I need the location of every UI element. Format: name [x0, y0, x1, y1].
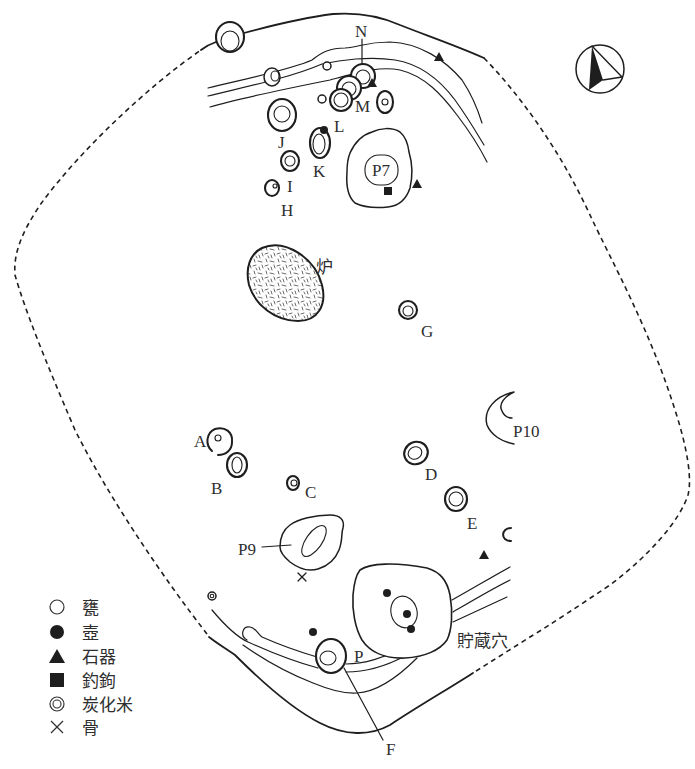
- east-ditch-line-3: [453, 597, 507, 622]
- legend: 甕 壺 石器 釣鉤 炭化米 骨: [49, 598, 133, 738]
- jar-filled-circle-icon: [403, 610, 411, 618]
- ditch-small-pit: [264, 68, 280, 86]
- pits-de: D E: [400, 438, 511, 559]
- label-storage-pit: 貯蔵穴: [457, 631, 508, 651]
- small-pit: [323, 62, 331, 70]
- pit-h: [265, 180, 279, 196]
- legend-label: 骨: [82, 718, 99, 738]
- label-j: J: [278, 133, 285, 152]
- label-f: F: [386, 740, 395, 759]
- stone-tool-triangle-icon: [479, 550, 489, 559]
- jar-filled-circle-icon: [309, 628, 317, 636]
- legend-label: 甕: [82, 598, 99, 618]
- posthole-p10: P10: [486, 392, 539, 444]
- filled-square-icon: [50, 673, 64, 687]
- label-i: I: [287, 177, 293, 196]
- pit-i: [281, 151, 299, 171]
- legend-item-bone: 骨: [51, 718, 99, 738]
- pit-g-group: G: [399, 301, 433, 341]
- double-circle-inner: [53, 700, 61, 708]
- pit-a: [207, 428, 232, 455]
- rice-double-circle-icon: [208, 592, 216, 600]
- wall-corner-pit: [216, 22, 244, 52]
- pits-hijk: J K I H: [265, 99, 330, 220]
- label-m: M: [355, 97, 370, 116]
- plan-canvas: N M L J K I H P7 炉 G: [0, 0, 695, 769]
- filled-circle-icon: [50, 625, 64, 639]
- jar-filled-circle-icon: [383, 589, 391, 597]
- cross-icon: [51, 721, 63, 733]
- label-b: B: [211, 479, 222, 498]
- hearth-outline: [248, 245, 324, 321]
- legend-item-carbonized-rice: 炭化米: [50, 695, 133, 715]
- label-p9: P9: [238, 540, 256, 559]
- bone-cross-icon: [298, 573, 306, 581]
- jar-filled-circle-icon: [320, 126, 328, 134]
- label-e: E: [467, 514, 477, 533]
- p9-outline: [280, 515, 343, 570]
- label-p10: P10: [513, 422, 539, 441]
- storage-pit-group: 貯蔵穴: [353, 564, 508, 658]
- legend-item-pot: 壺: [50, 623, 99, 643]
- pit-cluster-nlm: N M L: [318, 22, 393, 136]
- legend-label: 壺: [82, 623, 99, 643]
- legend-label: 石器: [82, 647, 116, 667]
- pits-abc: A B C: [194, 428, 316, 502]
- posthole-p9: P9: [238, 515, 343, 581]
- pit-f-leader: [344, 668, 383, 740]
- pit-d: [400, 438, 431, 468]
- label-p7: P7: [372, 161, 390, 180]
- label-p: P: [354, 647, 363, 666]
- label-c: C: [305, 483, 316, 502]
- pit-m: [377, 91, 393, 113]
- pit-j: [268, 99, 296, 131]
- legend-label: 釣鉤: [82, 671, 116, 691]
- legend-item-stone-tool: 石器: [49, 647, 116, 667]
- label-g: G: [421, 322, 433, 341]
- small-pit: [318, 95, 326, 103]
- dwelling-outline: [15, 13, 690, 733]
- open-circle-icon: [50, 600, 64, 614]
- label-h: H: [281, 201, 293, 220]
- filled-triangle-icon: [49, 649, 65, 663]
- hearth: 炉: [248, 245, 333, 321]
- fishhook-square-icon: [384, 187, 392, 195]
- label-a: A: [194, 432, 207, 451]
- pit-l: [330, 89, 352, 111]
- wall-right-dashed: [473, 58, 689, 673]
- p10-outline: [486, 392, 514, 444]
- legend-item-fishhook: 釣鉤: [50, 671, 116, 691]
- jar-filled-circle-icon: [407, 625, 415, 633]
- p9-inner: [297, 522, 331, 561]
- north-arrow-fill: [589, 46, 603, 90]
- wall-left-dashed: [15, 50, 207, 634]
- storage-pit-outline: [353, 564, 452, 658]
- dwelling-plan-figure: N M L J K I H P7 炉 G: [0, 0, 695, 769]
- crescent-pit: [503, 528, 511, 541]
- pit-a-inner: [215, 435, 221, 441]
- label-hearth: 炉: [316, 257, 333, 277]
- stone-tool-triangle-icon: [412, 179, 422, 188]
- label-k: K: [313, 162, 326, 181]
- legend-label: 炭化米: [82, 695, 133, 715]
- label-d: D: [425, 465, 437, 484]
- label-l: L: [334, 117, 344, 136]
- p9-leader: [262, 545, 291, 547]
- north-arrow-icon: [576, 45, 624, 93]
- label-n: N: [355, 22, 367, 41]
- legend-item-jar: 甕: [50, 598, 99, 618]
- double-circle-icon: [50, 697, 64, 711]
- north-arrow-circle: [576, 45, 624, 93]
- east-ditch-line-2: [453, 580, 510, 612]
- pit-e: [445, 487, 467, 511]
- posthole-p7: P7: [347, 129, 422, 208]
